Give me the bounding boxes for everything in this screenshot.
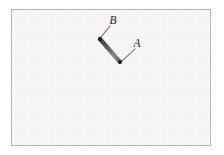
- label-a: A: [132, 37, 141, 49]
- panel-texture: [12, 10, 211, 146]
- figure-root: B A: [0, 0, 224, 155]
- rod-endpoint-lower: [118, 60, 122, 64]
- label-b: B: [109, 14, 116, 26]
- rod-endpoint-upper: [98, 37, 102, 41]
- figure-canvas: B A: [0, 0, 224, 155]
